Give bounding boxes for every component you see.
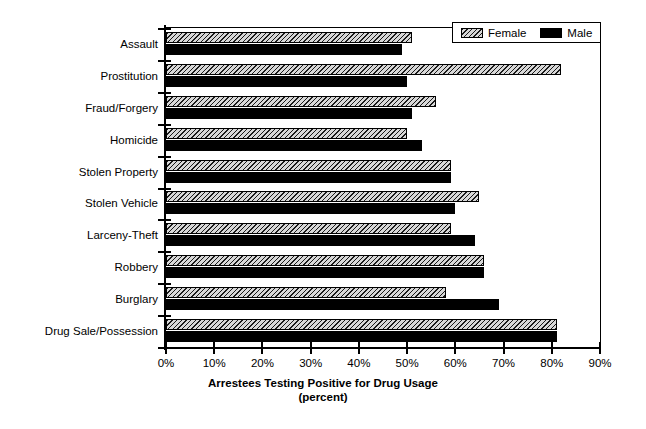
y-axis-label: Drug Sale/Possession — [8, 325, 158, 337]
legend-item-male: Male — [540, 27, 592, 39]
y-axis-label: Prostitution — [8, 70, 158, 82]
x-axis-tick-label: 30% — [291, 357, 331, 370]
bar-group — [166, 60, 600, 92]
x-axis-tick — [261, 342, 263, 354]
bar-female — [166, 32, 412, 43]
bar-female — [166, 223, 451, 234]
y-axis-tick — [158, 219, 171, 221]
y-axis-label: Larceny-Theft — [8, 229, 158, 241]
x-axis-line — [164, 347, 601, 349]
bar-group — [166, 187, 600, 219]
y-axis-label: Stolen Vehicle — [8, 197, 158, 209]
y-axis-label: Assault — [8, 38, 158, 50]
x-axis-tick — [358, 342, 360, 354]
bar-group — [166, 219, 600, 251]
y-axis-label: Stolen Property — [8, 166, 158, 178]
bar-male — [166, 108, 412, 119]
x-axis-title-sub: (percent) — [0, 390, 646, 404]
bar-female — [166, 319, 557, 330]
bar-chart: AssaultProstitutionFraud/ForgeryHomicide… — [0, 0, 646, 429]
bar-male — [166, 203, 455, 214]
x-axis-tick-label: 80% — [532, 357, 572, 370]
y-axis-label: Homicide — [8, 134, 158, 146]
y-axis-tick — [158, 347, 171, 349]
bar-female — [166, 191, 479, 202]
legend-label-male: Male — [567, 27, 592, 39]
bar-male — [166, 172, 451, 183]
bar-male — [166, 44, 402, 55]
bar-male — [166, 299, 499, 310]
y-axis-tick — [158, 60, 171, 62]
y-axis-label: Fraud/Forgery — [8, 102, 158, 114]
x-axis-tick-label: 90% — [580, 357, 620, 370]
y-axis-tick — [158, 251, 171, 253]
bar-female — [166, 160, 451, 171]
solid-black-swatch-icon — [540, 28, 562, 38]
bar-female — [166, 255, 484, 266]
y-axis-label: Burglary — [8, 293, 158, 305]
x-axis-tick — [503, 342, 505, 354]
x-axis-tick-label: 60% — [435, 357, 475, 370]
y-axis-tick — [158, 315, 171, 317]
legend-item-female: Female — [461, 27, 526, 39]
bar-male — [166, 267, 484, 278]
y-axis-labels: AssaultProstitutionFraud/ForgeryHomicide… — [0, 0, 158, 429]
bar-group — [166, 92, 600, 124]
x-axis-tick — [599, 342, 601, 354]
x-axis-tick-label: 40% — [339, 357, 379, 370]
y-axis-tick — [158, 188, 171, 190]
x-axis-tick-label: 20% — [242, 357, 282, 370]
y-axis-tick — [158, 28, 171, 30]
x-axis-tick — [406, 342, 408, 354]
bar-female — [166, 128, 407, 139]
bar-female — [166, 96, 436, 107]
x-axis-tick — [551, 342, 553, 354]
bar-male — [166, 235, 475, 246]
x-axis-tick — [310, 342, 312, 354]
bar-group — [166, 124, 600, 156]
legend: Female Male — [452, 22, 601, 43]
y-axis-tick — [158, 92, 171, 94]
x-axis-tick-label: 70% — [484, 357, 524, 370]
bar-female — [166, 287, 446, 298]
bar-male — [166, 76, 407, 87]
bar-male — [166, 331, 557, 342]
y-axis-tick — [158, 156, 171, 158]
x-axis-tick-label: 0% — [146, 357, 186, 370]
bar-male — [166, 140, 422, 151]
x-axis-title: Arrestees Testing Positive for Drug Usag… — [0, 376, 646, 404]
hatched-swatch-icon — [461, 28, 483, 38]
y-axis-tick — [158, 124, 171, 126]
x-axis-tick-label: 50% — [387, 357, 427, 370]
y-axis-label: Robbery — [8, 261, 158, 273]
x-axis-tick-label: 10% — [194, 357, 234, 370]
legend-label-female: Female — [488, 27, 526, 39]
bar-group — [166, 283, 600, 315]
bar-female — [166, 64, 561, 75]
x-axis-title-main: Arrestees Testing Positive for Drug Usag… — [208, 377, 438, 389]
bar-group — [166, 251, 600, 283]
bars-container — [166, 28, 600, 347]
bar-group — [166, 315, 600, 347]
x-axis-tick — [213, 342, 215, 354]
x-axis-tick — [454, 342, 456, 354]
bar-group — [166, 156, 600, 188]
y-axis-tick — [158, 283, 171, 285]
